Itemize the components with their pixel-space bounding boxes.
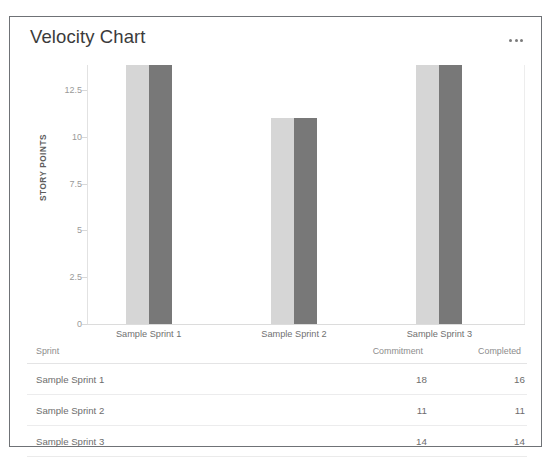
x-tick-label: Sample Sprint 3 — [407, 329, 472, 339]
cell-completed: 14 — [433, 436, 527, 447]
cell-sprint: Sample Sprint 1 — [27, 374, 323, 385]
velocity-chart-card: Velocity Chart STORY POINTS 02.557.51012… — [9, 16, 542, 447]
y-tick-label: 10 — [72, 132, 82, 142]
y-tick-mark — [82, 324, 87, 325]
cell-sprint: Sample Sprint 2 — [27, 405, 323, 416]
x-tick-label: Sample Sprint 1 — [116, 329, 181, 339]
y-tick-mark — [82, 230, 87, 231]
bar-completed-1[interactable] — [149, 65, 172, 324]
bar-completed-2[interactable] — [294, 118, 317, 324]
plot-area — [88, 65, 524, 324]
y-tick-mark — [82, 137, 87, 138]
x-tick-label: Sample Sprint 2 — [261, 329, 326, 339]
y-axis-title: STORY POINTS — [39, 113, 48, 223]
table-row[interactable]: Sample Sprint 11816 — [27, 364, 527, 395]
y-tick-label: 12.5 — [64, 85, 82, 95]
kebab-dot — [509, 39, 512, 42]
table-header-row: Sprint Commitment Completed — [27, 339, 527, 364]
x-axis-line — [87, 324, 525, 325]
y-tick-mark — [82, 90, 87, 91]
cell-commitment: 14 — [323, 436, 433, 447]
bar-commitment-1[interactable] — [126, 65, 149, 324]
cell-sprint: Sample Sprint 3 — [27, 436, 323, 447]
y-tick-mark — [82, 277, 87, 278]
bar-commitment-3[interactable] — [416, 65, 439, 324]
table-row[interactable]: Sample Sprint 31414 — [27, 426, 527, 457]
table-body: Sample Sprint 11816Sample Sprint 21111Sa… — [27, 364, 527, 457]
column-header-commitment: Commitment — [319, 346, 429, 356]
velocity-chart-page: Velocity Chart STORY POINTS 02.557.51012… — [0, 0, 553, 465]
bar-commitment-2[interactable] — [271, 118, 294, 324]
kebab-dot — [515, 39, 518, 42]
bar-completed-3[interactable] — [439, 65, 462, 324]
table-row[interactable]: Sample Sprint 21111 — [27, 395, 527, 426]
page-title: Velocity Chart — [30, 26, 146, 48]
y-axis-ticks: 02.557.51012.5 — [50, 65, 82, 324]
cell-commitment: 18 — [323, 374, 433, 385]
column-header-completed: Completed — [429, 346, 527, 356]
ellipsis-horizontal-icon[interactable] — [504, 33, 528, 47]
kebab-dot — [520, 39, 523, 42]
y-tick-label: 7.5 — [69, 179, 82, 189]
y-tick-mark — [82, 184, 87, 185]
column-header-sprint: Sprint — [27, 346, 319, 356]
cell-completed: 11 — [433, 405, 527, 416]
cell-commitment: 11 — [323, 405, 433, 416]
y-tick-label: 2.5 — [69, 272, 82, 282]
velocity-table: Sprint Commitment Completed Sample Sprin… — [27, 339, 527, 457]
cell-completed: 16 — [433, 374, 527, 385]
plot-right-border — [524, 65, 525, 324]
velocity-bar-chart: STORY POINTS 02.557.51012.5 Sample Sprin… — [10, 55, 543, 355]
